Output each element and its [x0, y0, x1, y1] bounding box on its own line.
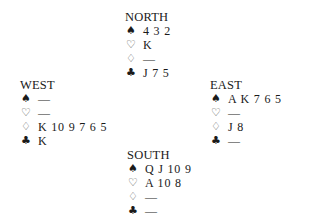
- cards-spades: 4 3 2: [143, 24, 171, 38]
- suit-row-hearts: ♡ —: [210, 106, 282, 120]
- cards-spades: Q J 10 9: [145, 162, 192, 176]
- cards-clubs: J 7 5: [143, 66, 170, 80]
- suit-row-clubs: ♣ K: [20, 134, 107, 148]
- suit-row-spades: ♠ Q J 10 9: [127, 162, 192, 176]
- hand-east: EAST ♠ A K 7 6 5 ♡ — ♢ J 8 ♣ —: [210, 78, 282, 148]
- suit-row-diamonds: ♢ J 8: [210, 120, 282, 134]
- diamond-icon: ♢: [20, 120, 32, 134]
- heart-icon: ♡: [127, 176, 139, 190]
- suit-row-clubs: ♣ —: [210, 134, 282, 148]
- cards-hearts: A 10 8: [145, 176, 182, 190]
- diamond-icon: ♢: [125, 52, 137, 66]
- cards-hearts: —: [228, 106, 241, 120]
- hand-title-north: NORTH: [125, 10, 171, 24]
- heart-icon: ♡: [210, 106, 222, 120]
- cards-spades: —: [38, 92, 51, 106]
- hand-south: SOUTH ♠ Q J 10 9 ♡ A 10 8 ♢ — ♣ —: [127, 148, 192, 218]
- spade-icon: ♠: [127, 162, 139, 176]
- club-icon: ♣: [127, 204, 139, 218]
- cards-clubs: —: [145, 204, 158, 218]
- hand-west: WEST ♠ — ♡ — ♢ K 10 9 7 6 5 ♣ K: [20, 78, 107, 148]
- spade-icon: ♠: [20, 92, 32, 106]
- cards-diamonds: J 8: [228, 120, 244, 134]
- club-icon: ♣: [210, 134, 222, 148]
- hand-title-south: SOUTH: [127, 148, 192, 162]
- diamond-icon: ♢: [127, 190, 139, 204]
- suit-row-hearts: ♡ K: [125, 38, 171, 52]
- cards-hearts: —: [38, 106, 51, 120]
- heart-icon: ♡: [20, 106, 32, 120]
- cards-clubs: K: [38, 134, 47, 148]
- club-icon: ♣: [125, 66, 137, 80]
- cards-clubs: —: [228, 134, 241, 148]
- spade-icon: ♠: [125, 24, 137, 38]
- cards-diamonds: —: [145, 190, 158, 204]
- club-icon: ♣: [20, 134, 32, 148]
- suit-row-diamonds: ♢ —: [127, 190, 192, 204]
- suit-row-clubs: ♣ J 7 5: [125, 66, 171, 80]
- hand-title-east: EAST: [210, 78, 282, 92]
- cards-spades: A K 7 6 5: [228, 92, 282, 106]
- suit-row-diamonds: ♢ K 10 9 7 6 5: [20, 120, 107, 134]
- hand-title-west: WEST: [20, 78, 107, 92]
- cards-diamonds: —: [143, 52, 156, 66]
- spade-icon: ♠: [210, 92, 222, 106]
- suit-row-spades: ♠ A K 7 6 5: [210, 92, 282, 106]
- heart-icon: ♡: [125, 38, 137, 52]
- cards-hearts: K: [143, 38, 152, 52]
- suit-row-hearts: ♡ A 10 8: [127, 176, 192, 190]
- suit-row-spades: ♠ —: [20, 92, 107, 106]
- cards-diamonds: K 10 9 7 6 5: [38, 120, 107, 134]
- suit-row-clubs: ♣ —: [127, 204, 192, 218]
- suit-row-diamonds: ♢ —: [125, 52, 171, 66]
- diamond-icon: ♢: [210, 120, 222, 134]
- suit-row-hearts: ♡ —: [20, 106, 107, 120]
- hand-north: NORTH ♠ 4 3 2 ♡ K ♢ — ♣ J 7 5: [125, 10, 171, 80]
- suit-row-spades: ♠ 4 3 2: [125, 24, 171, 38]
